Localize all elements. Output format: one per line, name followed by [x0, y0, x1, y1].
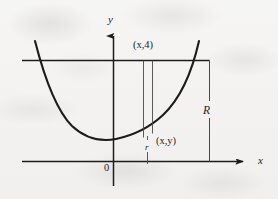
diagram-svg [0, 0, 278, 199]
upper-point-label: (x,4) [133, 40, 153, 51]
origin-label: 0 [104, 163, 109, 174]
y-axis-label: y [108, 14, 113, 25]
inner-radius-label: r [145, 143, 149, 152]
outer-radius-label: R [203, 105, 210, 117]
curve-point-label: (x,y) [156, 136, 176, 147]
figure-canvas: y x 0 (x,4) (x,y) R r [0, 0, 278, 199]
parabola-curve [35, 41, 199, 140]
x-axis-label: x [258, 155, 263, 166]
